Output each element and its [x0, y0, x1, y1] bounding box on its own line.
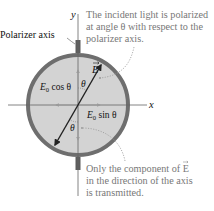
- top-callout-text: The incident light is polarized at angle…: [86, 9, 208, 44]
- svg-text:E0 sin θ: E0 sin θ: [86, 110, 117, 121]
- polarizer-axis-leader: [67, 38, 75, 44]
- e-vector-label: E: [91, 62, 99, 75]
- svg-text:E: E: [91, 64, 99, 75]
- svg-text:at angle θ with respect to the: at angle θ with respect to the: [86, 21, 203, 32]
- cos-component-label: E0 cos θ: [39, 82, 71, 93]
- svg-text:E0 cos θ: E0 cos θ: [39, 82, 71, 93]
- svg-text:is transmitted.: is transmitted.: [86, 187, 144, 198]
- svg-text:Only the component of E: Only the component of E: [86, 163, 189, 174]
- svg-text:The incident light is polarize: The incident light is polarized: [86, 9, 208, 20]
- sin-component-label: E0 sin θ: [86, 110, 117, 121]
- theta-label-top: θ: [81, 79, 86, 89]
- polarizer-axis-label: Polarizer axis: [0, 29, 55, 40]
- bottom-callout-text: Only the component of E in the direction…: [86, 161, 193, 198]
- svg-text:in the direction of the axis: in the direction of the axis: [86, 175, 193, 186]
- x-axis-label: x: [148, 99, 154, 110]
- svg-text:polarizer axis.: polarizer axis.: [86, 33, 144, 44]
- y-axis-label: y: [70, 9, 76, 20]
- theta-label-bottom: θ: [70, 123, 75, 133]
- polarizer-diagram: y x Polarizer axis E θ θ E0 cos θ E0 sin…: [0, 0, 214, 211]
